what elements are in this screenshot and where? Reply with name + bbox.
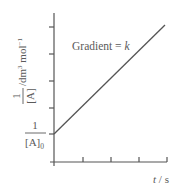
y-axis-label: 1 [A] /dm3 mol−1 (10, 38, 36, 104)
svg-text:[A]: [A] (24, 88, 36, 103)
x-ticks (83, 157, 167, 162)
y-intercept-label: 1 [A]0 (25, 119, 46, 151)
y-ticks (49, 27, 54, 134)
svg-text:[A]0: [A]0 (25, 136, 44, 151)
chart: Gradient = k 1 [A] /dm3 mol−1 1 [A]0 t /… (0, 0, 179, 190)
x-axis-label: t / s (153, 173, 169, 185)
gradient-annotation: Gradient = k (72, 40, 130, 52)
svg-text:/dm3 mol−1: /dm3 mol−1 (16, 38, 28, 86)
svg-text:1: 1 (32, 119, 38, 131)
svg-text:1: 1 (10, 93, 22, 99)
